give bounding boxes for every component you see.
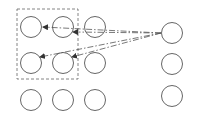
node-circle-r2c1 — [21, 53, 42, 74]
node-circle-r1c2 — [53, 17, 74, 38]
node-circle-r2c3 — [85, 53, 106, 74]
node-circle-r3c3 — [85, 90, 106, 111]
node-circle-r3c1 — [21, 90, 42, 111]
selection-group-box — [17, 9, 78, 79]
node-layer — [21, 17, 183, 111]
node-circle-s3 — [162, 86, 183, 107]
node-circle-r3c2 — [53, 90, 74, 111]
node-circle-r2c2 — [53, 53, 74, 74]
node-circle-r1c1 — [21, 17, 42, 38]
arrow-s1-to-r2c2 — [72, 33, 161, 57]
node-circle-r1c3 — [85, 17, 106, 38]
arrow-layer — [40, 27, 161, 57]
node-circle-s2 — [162, 54, 183, 75]
node-circle-s1 — [162, 23, 183, 44]
diagram-canvas — [0, 0, 197, 118]
